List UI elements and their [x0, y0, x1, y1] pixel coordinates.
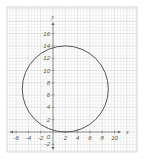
grid	[7, 7, 137, 152]
y-tick-label: 14	[43, 43, 50, 49]
x-tick-label: -4	[26, 135, 32, 141]
x-axis-arrow-left	[10, 130, 13, 133]
y-axis-label: y	[51, 14, 55, 20]
y-tick-label: -2	[45, 141, 51, 147]
x-axis-label: x	[125, 129, 129, 135]
y-axis-arrow-top	[51, 22, 54, 25]
y-tick-label: 2	[46, 117, 51, 123]
coordinate-plane: xy -6-4-2246810-22468101214160	[0, 0, 144, 164]
x-tick-label: -2	[38, 135, 44, 141]
y-axis-arrow-bottom	[51, 147, 54, 150]
x-tick-label: -6	[13, 135, 19, 141]
x-tick-label: 10	[111, 135, 118, 141]
axes: xy	[10, 14, 129, 150]
y-tick-label: 10	[43, 68, 50, 74]
x-tick-label: 2	[63, 135, 68, 141]
y-tick-label: 12	[43, 55, 50, 61]
y-tick-label: 16	[43, 31, 50, 37]
